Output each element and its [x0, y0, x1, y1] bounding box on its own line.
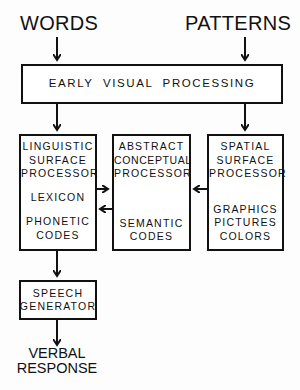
spatial-title-line-1: SPATIAL [209, 140, 282, 154]
speech-generator-box: SPEECH GENERATOR [19, 280, 97, 320]
input-words: WORDS [20, 12, 98, 35]
speech-generator-line-1: SPEECH [33, 287, 83, 301]
spatial-title-line-2: SURFACE [209, 154, 282, 168]
verbal-response-line-1: VERBAL [12, 346, 102, 361]
input-patterns: PATTERNS [185, 12, 291, 35]
abstract-title-line-1: ABSTRACT [114, 140, 189, 154]
pictures-label: PICTURES [209, 216, 282, 230]
early-visual-processing-box: EARLY VISUAL PROCESSING [21, 64, 283, 104]
colors-label: COLORS [209, 230, 282, 244]
linguistic-title-line-2: SURFACE [21, 154, 95, 168]
linguistic-title-line-3: PROCESSOR [21, 167, 95, 181]
abstract-title-line-2: CONCEPTUAL [114, 154, 189, 168]
spatial-surface-processor-box: SPATIAL SURFACE PROCESSOR GRAPHICS PICTU… [207, 134, 284, 251]
verbal-response-output: VERBAL RESPONSE [12, 346, 102, 376]
verbal-response-line-2: RESPONSE [12, 361, 102, 376]
graphics-label: GRAPHICS [209, 203, 282, 217]
abstract-conceptual-processor-box: ABSTRACT CONCEPTUAL PROCESSOR SEMANTIC C… [112, 134, 191, 251]
speech-generator-line-2: GENERATOR [20, 300, 96, 314]
phonetic-codes-line-2: CODES [21, 229, 95, 243]
abstract-title-line-3: PROCESSOR [114, 167, 189, 181]
semantic-codes-line-1: SEMANTIC [114, 217, 189, 231]
linguistic-surface-processor-box: LINGUISTIC SURFACE PROCESSOR LEXICON PHO… [19, 134, 97, 251]
phonetic-codes-line-1: PHONETIC [21, 215, 95, 229]
spatial-title-line-3: PROCESSOR [209, 167, 282, 181]
linguistic-title-line-1: LINGUISTIC [21, 140, 95, 154]
lexicon-label: LEXICON [21, 191, 95, 205]
early-visual-processing-label: EARLY VISUAL PROCESSING [49, 77, 256, 91]
semantic-codes-line-2: CODES [114, 230, 189, 244]
